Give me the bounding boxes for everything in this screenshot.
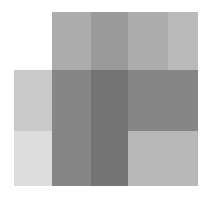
cell-r1-c0: [14, 70, 52, 131]
cell-r0-c3: [128, 12, 168, 70]
cell-r2-c1: [52, 131, 91, 186]
cell-r1-c4: [168, 70, 198, 131]
figure-canvas: Overlapping translucent gray rectangles: [0, 0, 210, 198]
cell-r2-c3: [128, 131, 168, 186]
cell-r0-c2: [91, 12, 128, 70]
cell-r0-c4: [168, 12, 198, 70]
cell-r2-c4: [168, 131, 198, 186]
cell-r2-c0: [14, 131, 52, 186]
cell-r0-c1: [52, 12, 91, 70]
cell-r2-c2: [91, 131, 128, 186]
cell-r1-c1: [52, 70, 91, 131]
cell-r1-c3: [128, 70, 168, 131]
cell-r1-c2: [91, 70, 128, 131]
